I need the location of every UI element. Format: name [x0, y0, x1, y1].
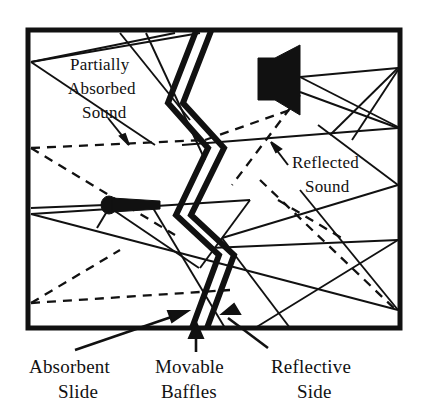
caption-absorbent-slide: Absorbent Slide [29, 356, 110, 402]
caption-movable-baffles: Movable Baffles [155, 356, 224, 402]
caption-reflective-side: Reflective Side [271, 356, 351, 402]
annotation-partially-absorbed-line2: Absorbed [68, 79, 136, 98]
annotation-partially-absorbed-line1: Partially [70, 55, 130, 74]
annotation-partially-absorbed-line3: Sound [82, 103, 127, 122]
diagram-canvas: Partially Absorbed Sound Reflected Sound… [0, 0, 427, 420]
caption-absorbent-slide-line1: Absorbent [29, 356, 110, 377]
caption-reflective-side-line1: Reflective [271, 356, 351, 377]
microphone-body [112, 198, 160, 212]
caption-movable-baffles-line1: Movable [155, 356, 224, 377]
caption-movable-baffles-line2: Baffles [161, 381, 217, 402]
caption-absorbent-slide-line2: Slide [58, 381, 98, 402]
acoustic-studio-diagram: Partially Absorbed Sound Reflected Sound… [0, 0, 427, 420]
caption-reflective-side-line2: Side [297, 381, 332, 402]
annotation-reflected-line1: Reflected [292, 153, 359, 172]
annotation-reflected-line2: Sound [305, 177, 350, 196]
